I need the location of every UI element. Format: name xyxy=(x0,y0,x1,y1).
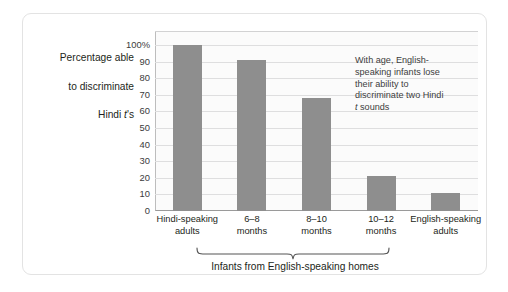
y-axis-tick-label: 10 xyxy=(140,190,150,199)
y-axis-tick-label: 30 xyxy=(140,156,150,165)
chart-plot-area: 100%9080706050403020100 Hindi-speakingad… xyxy=(155,31,478,211)
x-axis-tick-label: English-speakingadults xyxy=(406,214,485,237)
group-brace-icon xyxy=(195,247,391,260)
bar xyxy=(431,193,460,211)
annotation-line-1: With age, English- xyxy=(355,55,471,67)
y-axis-title-line-1: Percentage able xyxy=(10,51,134,65)
y-axis-tick-label: 90 xyxy=(140,57,150,66)
y-axis-tick-label: 70 xyxy=(140,90,150,99)
y-axis-tick-label: 20 xyxy=(140,173,150,182)
y-axis-tick-label: 60 xyxy=(140,107,150,116)
y-axis-title-line-3-post: 's xyxy=(127,109,134,120)
y-axis-title: Percentage able to discriminate Hindi t'… xyxy=(10,37,134,136)
annotation-line-5: t sounds xyxy=(355,102,471,114)
annotation-line-4: discriminate two Hindi xyxy=(355,90,471,102)
y-axis-tick-label: 80 xyxy=(140,73,150,82)
annotation-line-3: their ability to xyxy=(355,79,471,91)
y-axis-title-line-3-pre: Hindi xyxy=(98,109,124,120)
x-axis-tick-label-line-2: adults xyxy=(406,226,485,238)
bar xyxy=(302,98,331,211)
y-axis-tick-label: 100% xyxy=(126,40,150,49)
x-axis-group-caption: Infants from English-speaking homes xyxy=(145,261,445,272)
y-axis-title-line-2: to discriminate xyxy=(10,80,134,94)
bar xyxy=(367,176,396,211)
annotation-line-2: speaking infants lose xyxy=(355,67,471,79)
x-axis-tick-label-line-1: English-speaking xyxy=(406,214,485,226)
chart-annotation: With age, English- speaking infants lose… xyxy=(355,55,471,114)
annotation-line-5-post: sounds xyxy=(358,102,390,112)
bar xyxy=(237,60,266,211)
y-axis-title-line-3: Hindi t's xyxy=(10,108,134,122)
y-axis-tick-label: 40 xyxy=(140,140,150,149)
bar xyxy=(173,45,202,211)
y-axis-tick-label: 50 xyxy=(140,123,150,132)
